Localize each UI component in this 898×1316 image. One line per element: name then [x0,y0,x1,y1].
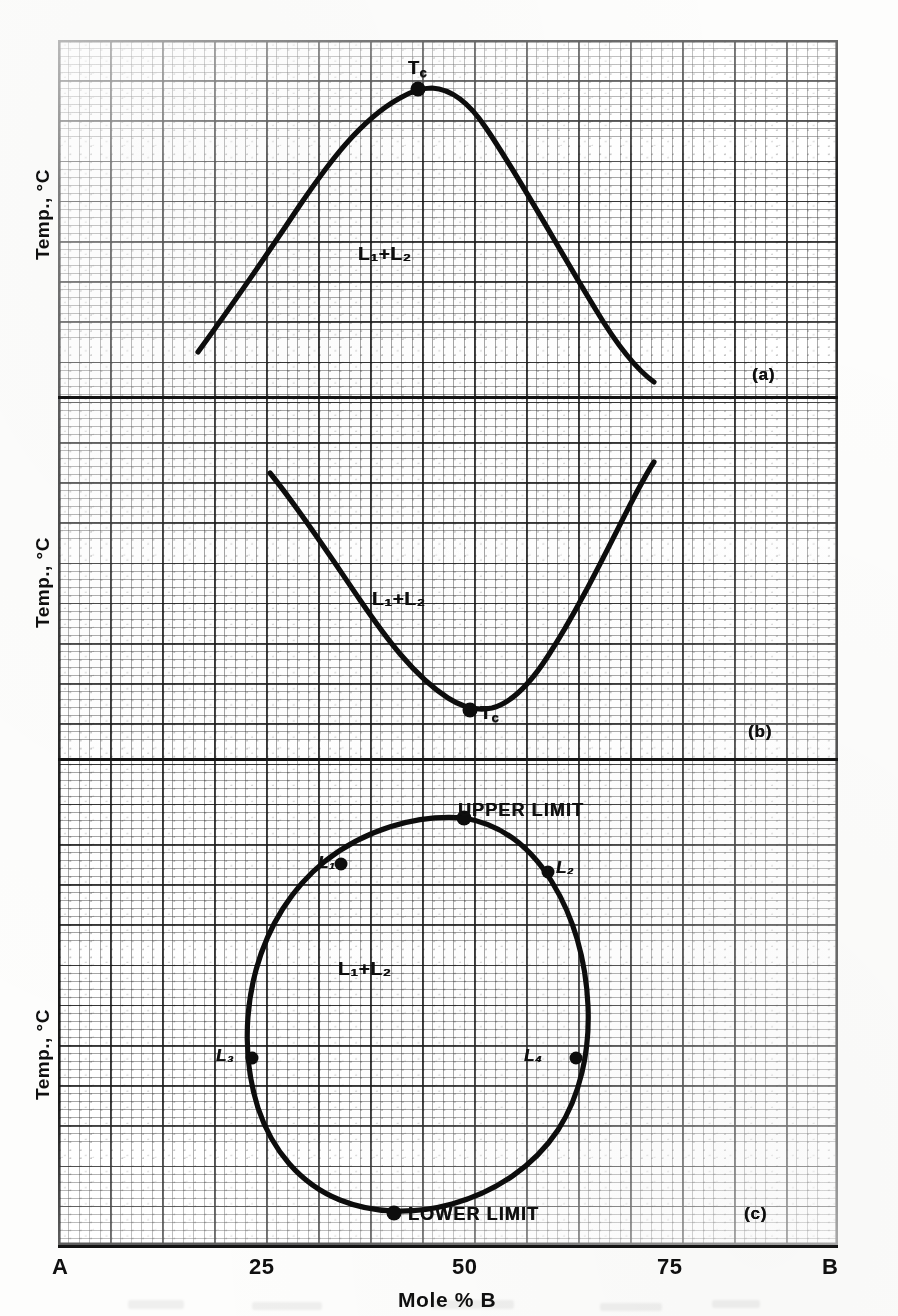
panel-tag-b: (b) [748,722,772,742]
label-L4: L₄ [524,1046,542,1066]
panel-divider-a-b [58,396,838,399]
label-critical-temp-b: Tc [480,703,499,725]
phase-diagram-figure: Tc L₁+L₂ (a) Tc L₁+L₂ (b) UPPER LIMIT LO… [0,0,898,1316]
label-critical-temp-a: Tc [408,58,427,80]
x-tick-25: 25 [249,1254,274,1280]
label-phase-region-a: L₁+L₂ [358,243,412,265]
label-lower-limit: LOWER LIMIT [408,1204,539,1225]
x-tick-B: B [822,1254,838,1280]
x-tick-50: 50 [452,1254,477,1280]
x-tick-75: 75 [657,1254,682,1280]
scan-smudge [430,1300,514,1309]
y-axis-label-panel-b: Temp., °C [32,537,54,628]
label-phase-region-b: L₁+L₂ [372,588,426,610]
y-axis-label-panel-a: Temp., °C [32,169,54,260]
scan-smudge [600,1303,662,1311]
panel-tag-c: (c) [744,1204,767,1224]
scan-smudge [712,1300,760,1308]
x-tick-A: A [52,1254,68,1280]
label-L1: L₁ [318,853,336,873]
scan-smudge [252,1302,322,1310]
x-axis-line [58,1245,838,1248]
label-L2: L₂ [556,858,574,878]
scan-smudge [128,1300,184,1309]
panel-divider-b-c [58,758,838,761]
graph-paper-grid [58,40,838,1245]
label-upper-limit: UPPER LIMIT [458,800,584,821]
y-axis-label-panel-c: Temp., °C [32,1009,54,1100]
panel-tag-a: (a) [752,365,775,385]
label-L3: L₃ [216,1046,234,1066]
label-phase-region-c: L₁+L₂ [338,958,392,980]
